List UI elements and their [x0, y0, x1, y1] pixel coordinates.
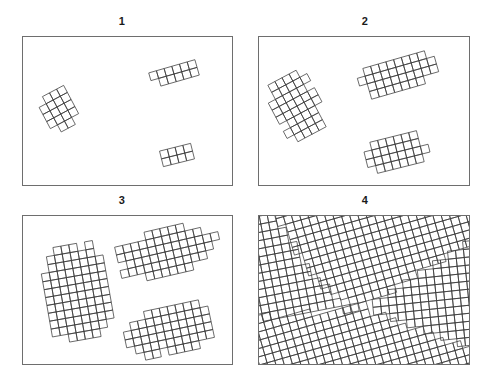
panel-frame-2: [258, 36, 470, 186]
panel-frame-1: [22, 36, 233, 186]
panel-frame-4: [258, 215, 470, 365]
panel-label-4: 4: [345, 194, 385, 206]
panel-frame-3: [22, 215, 233, 365]
panel-label-1: 1: [102, 15, 142, 27]
panel-label-3: 3: [102, 194, 142, 206]
panel-label-2: 2: [345, 15, 385, 27]
grain-growth-figure: 1234: [0, 0, 485, 383]
